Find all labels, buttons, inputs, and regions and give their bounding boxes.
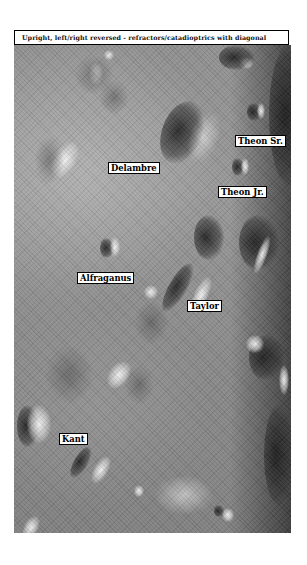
label-text: Theon Sr. <box>238 136 283 146</box>
label-text: Theon Jr. <box>221 187 264 197</box>
label-text: Kant <box>62 434 85 444</box>
label-text: Taylor <box>190 301 219 311</box>
label-alfraganus: Alfraganus <box>77 272 134 284</box>
label-text: Alfraganus <box>80 273 131 283</box>
label-kant: Kant <box>59 433 88 445</box>
label-taylor: Taylor <box>187 300 222 312</box>
label-theon-sr: Theon Sr. <box>235 135 286 147</box>
label-delambre: Delambre <box>108 162 160 174</box>
surface-texture <box>14 45 291 533</box>
lunar-map <box>14 45 291 533</box>
orientation-caption: Upright, left/right reversed - refractor… <box>14 30 289 45</box>
orientation-caption-text: Upright, left/right reversed - refractor… <box>22 34 266 42</box>
label-text: Delambre <box>111 163 157 173</box>
label-theon-jr: Theon Jr. <box>218 186 267 198</box>
